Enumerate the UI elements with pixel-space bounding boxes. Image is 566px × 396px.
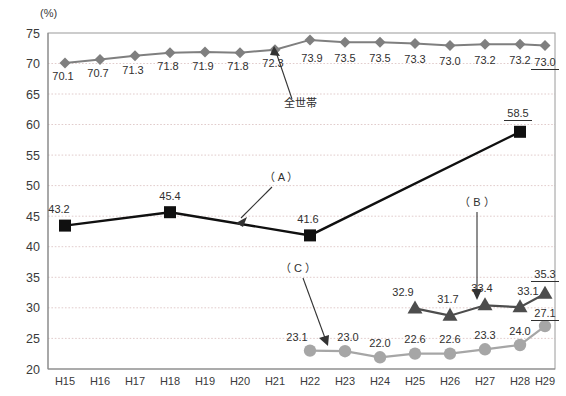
zensetai-label-h17: 71.3 xyxy=(122,64,143,76)
zensetai-label-h28: 73.2 xyxy=(509,54,530,66)
zensetai-label-h24: 73.5 xyxy=(369,52,390,64)
annotation-b-label: （ B ） xyxy=(459,196,494,208)
annotation-c-label: （ C ） xyxy=(280,262,316,274)
y-tick-45: 45 xyxy=(26,210,40,224)
y-axis-ticks: 75 70 65 60 55 50 45 40 35 30 25 20 xyxy=(26,27,40,377)
annotation-zensetai-label: 全世帯 xyxy=(284,96,317,110)
zensetai-label-h15: 70.1 xyxy=(52,70,73,82)
zensetai-label-h16: 70.7 xyxy=(87,67,108,79)
zensetai-label-h23: 73.5 xyxy=(334,52,355,64)
y-tick-30: 30 xyxy=(26,301,40,315)
series-c: 23.1 23.0 22.0 22.6 22.6 23.3 24.0 27.1 xyxy=(286,307,559,363)
zensetai-label-h25: 73.3 xyxy=(404,53,425,65)
b-label-h28: 33.1 xyxy=(517,285,538,297)
y-tick-65: 65 xyxy=(26,88,40,102)
x-tick-h16: H16 xyxy=(90,375,110,387)
y-axis-unit-label: (%) xyxy=(40,7,57,19)
y-tick-25: 25 xyxy=(26,332,40,346)
c-label-h22: 23.1 xyxy=(286,331,307,343)
x-tick-h24: H24 xyxy=(370,375,390,387)
x-tick-h25: H25 xyxy=(405,375,425,387)
b-label-h25: 32.9 xyxy=(392,286,413,298)
a-label-h15: 43.2 xyxy=(48,203,69,215)
zensetai-label-h22: 73.9 xyxy=(301,52,322,64)
zensetai-label-h26: 73.0 xyxy=(439,55,460,67)
c-label-h29: 27.1 xyxy=(534,307,555,319)
x-tick-h17: H17 xyxy=(125,375,145,387)
x-tick-h22: H22 xyxy=(300,375,320,387)
c-label-h23: 23.0 xyxy=(337,331,358,343)
c-label-h26: 22.6 xyxy=(439,333,460,345)
b-line xyxy=(415,294,545,316)
a-label-h28: 58.5 xyxy=(507,107,528,119)
c-label-h27: 23.3 xyxy=(474,329,495,341)
annotation-a-label: （ A ） xyxy=(264,171,299,183)
b-label-h26: 31.7 xyxy=(437,293,458,305)
x-tick-h19: H19 xyxy=(195,375,215,387)
y-tick-55: 55 xyxy=(26,149,40,163)
a-label-h18: 45.4 xyxy=(159,190,180,202)
x-axis-ticks: H15 H16 H17 H18 H19 H20 H21 H22 H23 H24 … xyxy=(55,375,555,387)
x-tick-h23: H23 xyxy=(335,375,355,387)
zensetai-label-h27: 73.2 xyxy=(474,54,495,66)
y-tick-50: 50 xyxy=(26,179,40,193)
zensetai-label-h20: 71.8 xyxy=(227,60,248,72)
zensetai-label-h29: 73.0 xyxy=(534,56,555,68)
x-tick-h27: H27 xyxy=(475,375,495,387)
series-zensetai: 70.1 70.7 71.3 71.8 71.9 71.8 72.3 73.9 … xyxy=(52,34,559,82)
b-label-h29: 35.3 xyxy=(534,268,555,280)
y-tick-35: 35 xyxy=(26,271,40,285)
zensetai-label-h19: 71.9 xyxy=(192,60,213,72)
chart-container: (%) 75 70 65 60 55 50 45 40 xyxy=(0,0,566,396)
y-tick-70: 70 xyxy=(26,57,40,71)
a-markers xyxy=(59,126,526,242)
line-chart: (%) 75 70 65 60 55 50 45 40 xyxy=(0,0,566,396)
y-tick-75: 75 xyxy=(26,27,40,41)
a-label-h22: 41.6 xyxy=(297,213,318,225)
zensetai-label-h21: 72.3 xyxy=(262,57,283,69)
y-tick-40: 40 xyxy=(26,240,40,254)
c-label-h24: 22.0 xyxy=(369,337,390,349)
x-tick-h21: H21 xyxy=(265,375,285,387)
x-tick-h29: H29 xyxy=(535,375,555,387)
x-tick-h28: H28 xyxy=(510,375,530,387)
c-label-h25: 22.6 xyxy=(404,333,425,345)
c-label-h28: 24.0 xyxy=(509,325,530,337)
y-tick-60: 60 xyxy=(26,118,40,132)
x-tick-h26: H26 xyxy=(440,375,460,387)
y-tick-20: 20 xyxy=(26,363,40,377)
x-tick-h15: H15 xyxy=(55,375,75,387)
x-tick-h20: H20 xyxy=(230,375,250,387)
annotation-a: （ A ） xyxy=(236,171,298,227)
a-line xyxy=(65,132,520,236)
zensetai-label-h18: 71.8 xyxy=(157,60,178,72)
x-tick-h18: H18 xyxy=(160,375,180,387)
